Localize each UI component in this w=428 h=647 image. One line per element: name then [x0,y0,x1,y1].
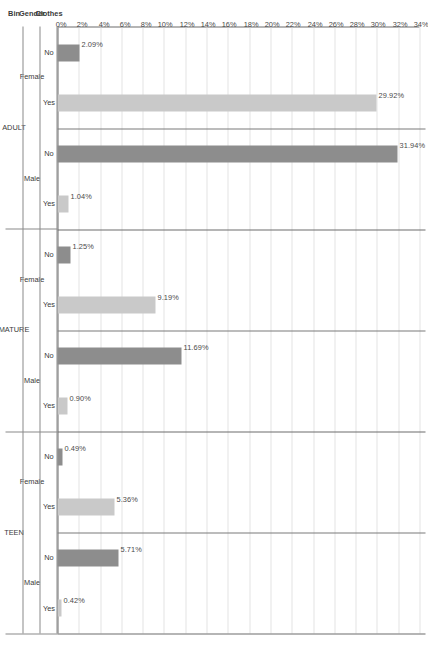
bar-value-label: 11.69% [183,342,208,351]
bar-value-label: 2.09% [81,39,102,48]
bar[interactable]: 0.90% [57,397,67,414]
bar-slot[interactable]: 5.36% [57,482,419,533]
bar-slot[interactable]: 29.92% [57,78,419,129]
category-cell: ADULT [5,26,23,228]
category-cell: Male [23,127,40,228]
bar-value-label: 0.49% [64,443,85,452]
category-label: Yes [42,603,54,612]
bar[interactable]: 0.49% [57,448,62,465]
category-table-separator [5,633,57,634]
category-label: TEEN [4,527,24,536]
category-row-underline [22,26,23,633]
category-label: Yes [42,502,54,511]
category-cell: No [40,329,57,380]
bar[interactable]: 9.19% [57,296,155,313]
bar-value-label: 5.36% [116,494,137,503]
bar-value-label: 0.90% [69,393,90,402]
bar-value-label: 0.42% [63,595,84,604]
category-row-underline [56,26,57,633]
category-row-underline [39,26,40,633]
header-bin: Bin [5,0,23,26]
bar[interactable]: 1.04% [57,195,68,212]
category-cell: Yes [40,380,57,431]
category-cell: Yes [40,178,57,229]
value-axis-ticks: 0%2%4%6%8%10%12%14%16%18%20%22%24%26%28%… [57,1,419,27]
category-cell: Yes [40,582,57,633]
category-label: No [44,451,53,460]
bar-value-label: 31.94% [399,140,425,149]
category-cell: No [40,532,57,583]
bar-slot[interactable]: 1.25% [57,229,419,280]
header-gender: Gender [23,0,40,26]
bars-container: 2.09%29.92%31.94%1.04%1.25%9.19%11.69%0.… [57,27,419,633]
bar[interactable]: 1.25% [57,246,70,263]
bar-slot[interactable]: 0.42% [57,583,419,634]
bar-value-label: 9.19% [157,292,178,301]
category-cell: No [40,431,57,482]
bar[interactable]: 2.09% [57,44,79,61]
category-cell: Female [23,431,40,532]
category-row-clothes: Clothes NoYesNoYesNoYesNoYesNoYesNoYes [40,26,57,633]
bar-slot[interactable]: 11.69% [57,330,419,381]
bar-slot[interactable]: 31.94% [57,128,419,179]
bar[interactable]: 0.42% [57,599,61,616]
category-label: Male [23,578,39,587]
category-label: No [44,350,53,359]
category-cell: No [40,228,57,279]
category-cell: Female [23,228,40,329]
category-label: No [44,47,53,56]
bar-slot[interactable]: 0.49% [57,431,419,482]
category-label: Yes [42,199,54,208]
category-cell: Yes [40,279,57,330]
bar[interactable]: 11.69% [57,347,181,364]
plot-area: Percentage of Clothes Purchases 0%2%4%6%… [57,26,419,633]
bar-slot[interactable]: 5.71% [57,532,419,583]
bar-value-label: 1.04% [70,191,91,200]
category-label: MATURE [0,325,29,334]
bar[interactable]: 29.92% [57,94,376,111]
category-label: Male [23,173,39,182]
category-label: No [44,553,53,562]
category-cell: Male [23,330,40,431]
bar-slot[interactable]: 2.09% [57,27,419,78]
category-label: Male [23,376,39,385]
category-cell: Female [23,26,40,127]
category-label: No [44,249,53,258]
bar-slot[interactable]: 9.19% [57,280,419,331]
bar[interactable]: 31.94% [57,145,397,162]
category-cell: No [40,127,57,178]
category-label: Yes [42,300,54,309]
category-label-table: Clothes NoYesNoYesNoYesNoYesNoYesNoYes G… [5,26,57,633]
bar-value-label: 1.25% [72,241,93,250]
bar[interactable]: 5.71% [57,549,118,566]
category-label: No [44,148,53,157]
category-table-separator [5,228,57,229]
category-cell: MATURE [5,228,23,430]
category-row-bin: Bin ADULTMATURETEEN [5,26,23,633]
category-cell: Male [23,532,40,633]
category-label: Yes [42,401,54,410]
bar-slot[interactable]: 0.90% [57,381,419,432]
category-cell: TEEN [5,431,23,633]
category-cell: Yes [40,481,57,532]
bar-value-label: 5.71% [120,544,141,553]
category-cell: No [40,26,57,77]
header-bin-label: Bin [8,9,20,18]
category-cell: Yes [40,77,57,128]
bar-value-label: 29.92% [378,90,404,99]
bar[interactable]: 5.36% [57,498,114,515]
category-table-separator [5,431,57,432]
category-label: Yes [42,97,54,106]
bar-slot[interactable]: 1.04% [57,179,419,230]
